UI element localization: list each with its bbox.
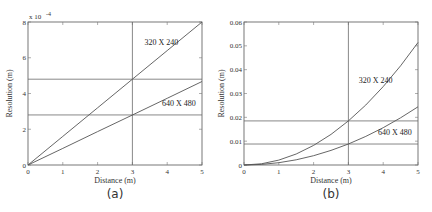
x-tick-label: 4	[381, 168, 385, 176]
y-tick-label: 6	[23, 54, 27, 62]
y-tick-label: 0.03	[230, 90, 243, 98]
y-tick-label: 4	[23, 90, 27, 98]
series-annotation: 640 X 480	[378, 128, 412, 137]
subfigure-caption: (b)	[323, 187, 340, 201]
x-tick-label: 1	[61, 168, 65, 176]
y-multiplier: x 10	[29, 13, 42, 21]
x-tick-label: 5	[200, 168, 204, 176]
x-tick-label: 0	[242, 168, 246, 176]
x-tick-label: 2	[96, 168, 100, 176]
y-axis-label: Resolution (m)	[217, 69, 226, 118]
x-tick-label: 3	[347, 168, 351, 176]
y-tick-label: 0.01	[230, 138, 243, 146]
subfigure-caption: (a)	[107, 187, 124, 201]
y-tick-label: 2	[23, 126, 27, 134]
y-axis-label: Resolution (m)	[5, 69, 14, 118]
plot-a: 01234502468x 10-4320 X 240640 X 480Dista…	[5, 11, 204, 201]
series-annotation: 320 X 240	[359, 76, 393, 85]
x-axis-label: Distance (m)	[94, 176, 136, 185]
y-tick-label: 8	[23, 19, 27, 27]
series-annotation: 320 X 240	[145, 38, 179, 47]
plot-b: 01234500.010.020.030.040.050.06320 X 240…	[217, 19, 420, 202]
series-line	[244, 43, 418, 166]
x-tick-label: 2	[312, 168, 316, 176]
y-tick-label: 0	[239, 162, 243, 170]
x-tick-label: 0	[26, 168, 30, 176]
x-tick-label: 5	[416, 168, 420, 176]
x-axis-label: Distance (m)	[310, 176, 352, 185]
y-tick-label: 0	[23, 162, 27, 170]
y-tick-label: 0.04	[230, 66, 243, 74]
y-tick-label: 0.05	[230, 42, 243, 50]
x-tick-label: 3	[131, 168, 135, 176]
x-tick-label: 4	[165, 168, 169, 176]
y-tick-label: 0.02	[230, 114, 243, 122]
y-tick-label: 0.06	[230, 19, 243, 27]
axes-box	[244, 22, 418, 165]
x-tick-label: 1	[277, 168, 281, 176]
y-exponent: -4	[46, 11, 51, 17]
figure: 01234502468x 10-4320 X 240640 X 480Dista…	[0, 0, 432, 212]
series-annotation: 640 X 480	[162, 99, 196, 108]
